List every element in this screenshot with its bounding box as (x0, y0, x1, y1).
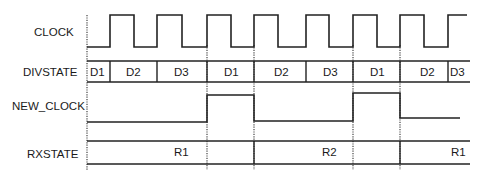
divstate-cell: D1 (370, 66, 385, 78)
rxstate-bus: R1 R2 R1 (87, 141, 470, 164)
divstate-cell: D2 (274, 66, 289, 78)
divstate-cell: D3 (174, 66, 189, 78)
rxstate-cell: R1 (451, 146, 466, 158)
clock-waveform (87, 15, 467, 47)
divstate-cell: D2 (126, 66, 141, 78)
divstate-cell: D1 (224, 66, 239, 78)
divstate-cell: D3 (450, 66, 465, 78)
rxstate-cell: R2 (322, 146, 337, 158)
rxstate-label: RXSTATE (27, 148, 79, 160)
rxstate-cell: R1 (174, 146, 189, 158)
timing-diagram: CLOCK DIVSTATE NEW_CLOCK RXSTATE D1 D2 D… (0, 0, 480, 177)
new-clock-label: NEW_CLOCK (12, 100, 85, 112)
new-clock-waveform (87, 93, 460, 122)
divstate-cell: D1 (90, 66, 105, 78)
clock-label: CLOCK (34, 26, 74, 38)
divstate-cell: D3 (323, 66, 338, 78)
divstate-label: DIVSTATE (23, 66, 78, 78)
divstate-bus: D1 D2 D3 D1 D2 D3 D1 D2 D3 (87, 61, 470, 82)
divstate-cell: D2 (420, 66, 435, 78)
